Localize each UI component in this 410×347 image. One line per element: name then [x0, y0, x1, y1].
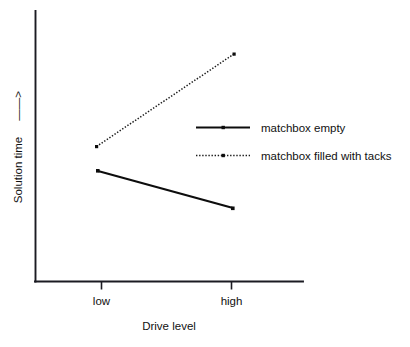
data-point-marker	[233, 53, 236, 56]
chart-canvas: low high Drive level Solution time ——> m…	[0, 0, 410, 347]
series-line-solid	[98, 171, 233, 208]
x-axis-title: Drive level	[142, 320, 196, 332]
legend-label-matchbox-empty: matchbox empty	[261, 122, 346, 134]
series-matchbox-filled-with-tacks	[95, 53, 236, 149]
data-point-marker	[95, 145, 98, 148]
data-point-marker	[231, 207, 235, 211]
legend-label-matchbox-filled-with-tacks: matchbox filled with tacks	[261, 150, 392, 162]
legend-marker-icon	[222, 126, 225, 129]
legend-marker-icon	[222, 154, 225, 157]
y-axis-title: Solution time	[12, 137, 24, 203]
legend-entry-matchbox-filled-with-tacks[interactable]: matchbox filled with tacks	[196, 150, 392, 162]
legend: matchbox empty matchbox filled with tack…	[196, 122, 392, 162]
legend-entry-matchbox-empty[interactable]: matchbox empty	[196, 122, 346, 134]
series-matchbox-empty	[96, 169, 235, 210]
y-axis-title-group: Solution time ——>	[12, 91, 24, 203]
x-tick-label-low: low	[93, 295, 111, 307]
series-line-dotted	[97, 54, 235, 147]
data-point-marker	[96, 169, 100, 173]
x-tick-label-high: high	[221, 295, 243, 307]
line-chart: low high Drive level Solution time ——> m…	[0, 0, 410, 347]
y-axis-arrow-icon: ——>	[12, 91, 24, 121]
